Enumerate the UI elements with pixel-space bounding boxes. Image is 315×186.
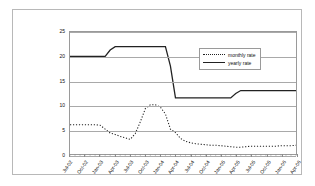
x-axis-tick-mark: [69, 154, 70, 157]
x-axis-tick-mark: [84, 154, 85, 157]
x-axis-tick-label: Jul-05: [244, 159, 257, 174]
y-axis: 0510152025: [43, 31, 65, 155]
chart-frame: 0510152025 Jul-02Oct-02Jan-03Apr-03Jul-0…: [12, 9, 302, 175]
x-axis-tick-mark: [160, 154, 161, 157]
x-axis-tick-mark: [145, 154, 146, 157]
x-axis-tick-label: Jul-04: [183, 159, 196, 174]
legend-label-yearly-rate: yearly rate: [228, 60, 251, 66]
x-axis-tick-label: Oct-02: [76, 159, 90, 175]
x-axis: Jul-02Oct-02Jan-03Apr-03Jul-03Oct-03Jan-…: [69, 157, 297, 186]
y-axis-tick-label: 5: [45, 127, 65, 133]
x-axis-tick-mark: [282, 154, 283, 157]
legend-swatch-dotted: [203, 52, 225, 58]
gridline: [70, 57, 296, 58]
x-axis-tick-label: Jul-03: [122, 159, 135, 174]
x-axis-tick-mark: [130, 154, 131, 157]
gridline: [70, 82, 296, 83]
x-axis-tick-mark: [267, 154, 268, 157]
gridline: [70, 131, 296, 132]
x-axis-tick-label: Jan-06: [273, 159, 287, 175]
x-axis-tick-label: Apr-04: [167, 159, 181, 175]
y-axis-tick-label: 15: [45, 78, 65, 84]
y-axis-tick-label: 20: [45, 53, 65, 59]
x-axis-tick-label: Jan-04: [151, 159, 165, 175]
chart-legend: monthly rate yearly rate: [199, 48, 261, 70]
series-lines: [70, 32, 296, 154]
legend-swatch-solid: [203, 60, 225, 66]
legend-label-monthly-rate: monthly rate: [228, 52, 256, 58]
y-axis-tick-label: 10: [45, 102, 65, 108]
x-axis-tick-mark: [191, 154, 192, 157]
x-axis-tick-mark: [251, 154, 252, 157]
legend-item-yearly-rate: yearly rate: [203, 59, 256, 67]
y-axis-tick-label: 0: [45, 152, 65, 158]
x-axis-tick-mark: [236, 154, 237, 157]
x-axis-tick-label: Jul-02: [61, 159, 74, 174]
x-axis-tick-label: Oct-05: [258, 159, 272, 175]
x-axis-tick-mark: [221, 154, 222, 157]
series-yearly-rate: [70, 47, 296, 98]
x-axis-tick-mark: [99, 154, 100, 157]
legend-item-monthly-rate: monthly rate: [203, 51, 256, 59]
gridline: [70, 106, 296, 107]
x-axis-tick-label: Oct-04: [197, 159, 211, 175]
x-axis-tick-label: Apr-05: [228, 159, 242, 175]
x-axis-tick-label: Apr-06: [288, 159, 302, 175]
x-axis-tick-label: Oct-03: [136, 159, 150, 175]
series-monthly-rate: [70, 105, 296, 147]
y-axis-tick-label: 25: [45, 28, 65, 34]
x-axis-tick-mark: [175, 154, 176, 157]
x-axis-tick-mark: [206, 154, 207, 157]
x-axis-tick-label: Jan-03: [91, 159, 105, 175]
x-axis-tick-mark: [115, 154, 116, 157]
plot-area: [69, 31, 297, 155]
x-axis-tick-mark: [297, 154, 298, 157]
x-axis-tick-label: Jan-05: [212, 159, 226, 175]
x-axis-tick-label: Apr-03: [106, 159, 120, 175]
gridline: [70, 32, 296, 33]
